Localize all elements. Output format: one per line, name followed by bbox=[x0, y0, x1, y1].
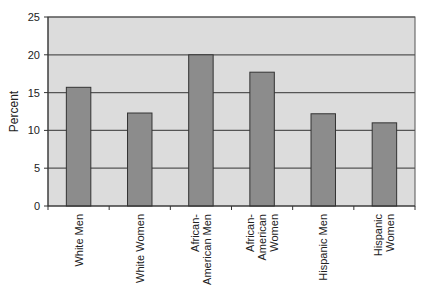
x-tick-label: African-AmericanWomen bbox=[244, 214, 280, 261]
x-tick-label: HispanicWomen bbox=[372, 214, 396, 257]
x-tick-label-line: Hispanic bbox=[372, 214, 384, 257]
y-axis-title: Percent bbox=[7, 90, 21, 132]
x-tick-label-line: White Women bbox=[134, 214, 146, 283]
y-axis-ticks: 0510152025 bbox=[28, 11, 48, 212]
x-tick-label-line: Hispanic Men bbox=[317, 214, 329, 281]
x-tick-label: African-American Men bbox=[189, 214, 213, 285]
x-tick-label-line: White Men bbox=[73, 214, 85, 267]
bar-white-women bbox=[128, 113, 152, 206]
bar-white-men bbox=[66, 87, 90, 206]
bar-hispanic-women bbox=[372, 123, 396, 206]
bar-hispanic-men bbox=[311, 114, 335, 206]
x-tick-label: White Women bbox=[134, 214, 146, 283]
y-tick-label: 10 bbox=[28, 124, 40, 136]
x-tick-label-line: African- bbox=[189, 214, 201, 252]
y-tick-label: 5 bbox=[34, 162, 40, 174]
x-tick-label-line: Women bbox=[268, 214, 280, 252]
y-tick-label: 15 bbox=[28, 87, 40, 99]
bar-african-american-men bbox=[189, 55, 213, 206]
x-tick-label-line: American bbox=[256, 214, 268, 260]
x-tick-label: White Men bbox=[73, 214, 85, 267]
x-tick-label: Hispanic Men bbox=[317, 214, 329, 281]
bar-african-american-women bbox=[250, 72, 274, 206]
x-axis-ticks: White MenWhite WomenAfrican-American Men… bbox=[48, 206, 415, 285]
y-tick-label: 20 bbox=[28, 49, 40, 61]
y-tick-label: 0 bbox=[34, 200, 40, 212]
y-tick-label: 25 bbox=[28, 11, 40, 23]
x-tick-label-line: American Men bbox=[201, 214, 213, 285]
plot-area bbox=[48, 17, 415, 206]
x-tick-label-line: African- bbox=[244, 214, 256, 252]
x-tick-label-line: Women bbox=[384, 214, 396, 252]
bar-chart: 0510152025 White MenWhite WomenAfrican-A… bbox=[0, 0, 424, 292]
